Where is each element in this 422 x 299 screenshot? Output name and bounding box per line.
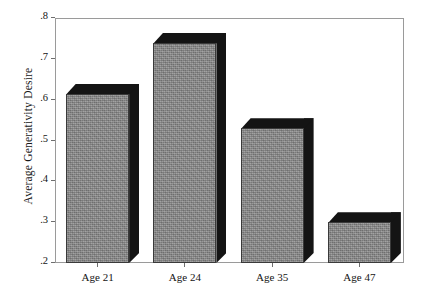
y-tick-label: .2 — [40, 255, 48, 266]
y-tick-mark — [51, 99, 55, 100]
y-tick-mark — [51, 262, 55, 263]
x-tick-mark — [184, 263, 185, 267]
y-tick-label: .6 — [40, 92, 48, 103]
y-tick-label: .7 — [40, 51, 48, 62]
x-tick-label: Age 47 — [313, 271, 405, 283]
y-tick-mark — [51, 17, 55, 18]
bar-front-face — [66, 94, 129, 263]
bar-front-face — [241, 128, 304, 263]
y-axis-title: Average Generativity Desire — [22, 16, 34, 256]
y-tick-label: .4 — [40, 173, 48, 184]
bar-side-face — [129, 84, 139, 263]
x-tick-mark — [272, 263, 273, 267]
x-tick-label: Age 35 — [226, 271, 318, 283]
bar — [241, 118, 314, 263]
y-tick-mark — [51, 140, 55, 141]
x-tick-label: Age 21 — [52, 271, 144, 283]
y-tick-label: .5 — [40, 133, 48, 144]
y-tick-mark — [51, 221, 55, 222]
y-tick-label: .8 — [40, 10, 48, 21]
y-tick-mark — [51, 58, 55, 59]
x-tick-mark — [97, 263, 98, 267]
x-tick-mark — [359, 263, 360, 267]
bar — [66, 84, 139, 263]
bar-chart-figure: Average Generativity Desire .8.7.6.5.4.3… — [0, 0, 422, 299]
bar-side-face — [216, 33, 226, 264]
bar-front-face — [153, 43, 216, 264]
bar — [153, 33, 226, 264]
x-tick-label: Age 24 — [139, 271, 231, 283]
bar — [328, 212, 401, 263]
y-tick-mark — [51, 180, 55, 181]
bar-front-face — [328, 222, 391, 263]
bar-side-face — [304, 118, 314, 263]
y-tick-label: .3 — [40, 214, 48, 225]
